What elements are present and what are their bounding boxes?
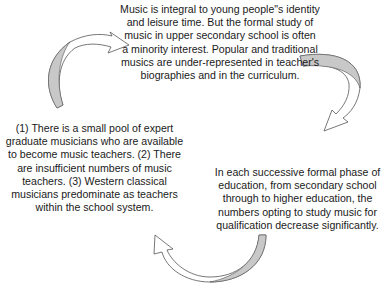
cycle-node-left: (1) There is a small pool of expert grad… xyxy=(2,122,187,214)
curved-arrow-icon xyxy=(154,235,266,282)
curved-arrow-icon xyxy=(48,32,129,108)
cycle-node-top: Music is integral to young people"s iden… xyxy=(120,3,320,82)
cycle-node-right: In each successive formal phase of educa… xyxy=(210,166,385,232)
